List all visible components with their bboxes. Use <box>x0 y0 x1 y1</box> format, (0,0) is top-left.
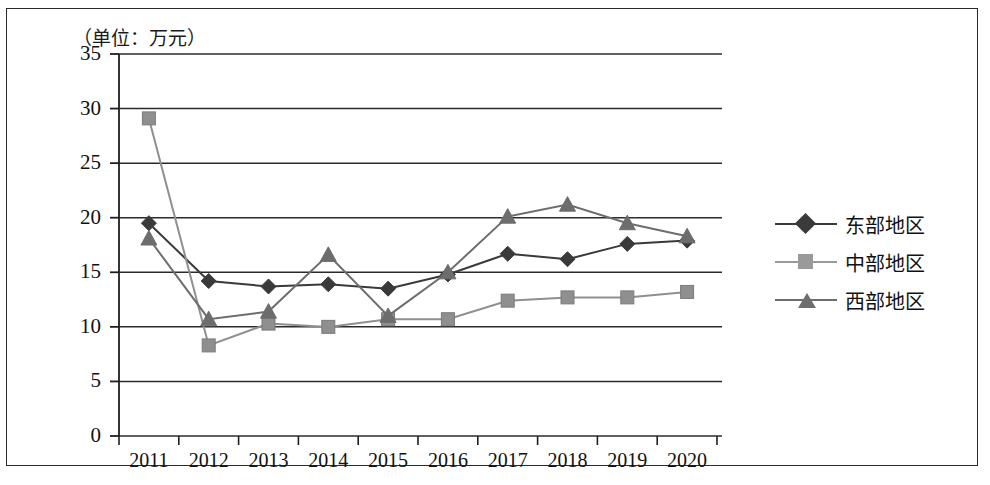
x-axis-tick-label: 2014 <box>296 449 360 472</box>
legend-marker-triangle-icon <box>775 289 837 311</box>
legend-item-west[interactable]: 西部地区 <box>775 281 965 319</box>
y-axis-tick-label: 5 <box>61 368 101 393</box>
x-axis-tick-label: 2019 <box>595 449 659 472</box>
y-axis-tick-label: 35 <box>61 41 101 66</box>
legend-item-east[interactable]: 东部地区 <box>775 205 965 243</box>
legend-label-central: 中部地区 <box>845 248 925 277</box>
x-axis-tick-label: 2020 <box>655 449 719 472</box>
x-axis-tick-label: 2016 <box>416 449 480 472</box>
x-axis-tick-label: 2017 <box>476 449 540 472</box>
y-axis-tick-label: 0 <box>61 423 101 448</box>
y-axis-tick-label: 10 <box>61 314 101 339</box>
legend-label-east: 东部地区 <box>845 210 925 239</box>
y-axis-tick-label: 25 <box>61 150 101 175</box>
chart-figure-frame: （单位：万元） 东部地区 中部地区 西部地区 35302520151050201… <box>6 8 978 466</box>
x-axis-tick-label: 2011 <box>117 449 181 472</box>
x-axis-tick-label: 2012 <box>177 449 241 472</box>
legend-marker-square-icon <box>775 251 837 273</box>
x-axis-tick-label: 2013 <box>237 449 301 472</box>
y-axis-tick-label: 15 <box>61 259 101 284</box>
x-axis-tick-label: 2015 <box>356 449 420 472</box>
chart-legend: 东部地区 中部地区 西部地区 <box>775 205 965 319</box>
y-axis-tick-label: 30 <box>61 96 101 121</box>
x-axis-tick-label: 2018 <box>536 449 600 472</box>
y-axis-tick-label: 20 <box>61 205 101 230</box>
legend-label-west: 西部地区 <box>845 286 925 315</box>
legend-item-central[interactable]: 中部地区 <box>775 243 965 281</box>
legend-marker-diamond-icon <box>775 213 837 235</box>
